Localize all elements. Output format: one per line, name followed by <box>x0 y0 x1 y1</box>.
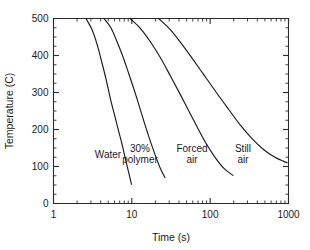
curve-label-text: air <box>186 154 198 165</box>
curve-label-text: 30% <box>130 143 150 154</box>
x-tick-label: 10 <box>126 209 138 220</box>
y-tick-label: 500 <box>32 13 49 24</box>
curve-label-text: polymer <box>122 154 158 165</box>
y-tick-label: 100 <box>32 161 49 172</box>
y-tick-label: 0 <box>43 198 49 209</box>
y-tick-label: 300 <box>32 87 49 98</box>
y-tick-label: 400 <box>32 50 49 61</box>
x-tick-label: 100 <box>202 209 219 220</box>
x-tick-label: 1 <box>51 209 57 220</box>
curve-label-text: Water <box>95 149 122 160</box>
chart-canvas: 1101001000 0100200300400500 Water30%poly… <box>0 0 310 250</box>
y-tick-label: 200 <box>32 124 49 135</box>
y-axis-title: Temperature (C) <box>3 73 15 149</box>
cooling-curve-chart: 1101001000 0100200300400500 Water30%poly… <box>0 0 310 250</box>
curve-label-text: Forced <box>176 143 207 154</box>
x-axis-title: Time (s) <box>152 231 190 243</box>
curve-label-text: Still <box>235 143 251 154</box>
curve-label-text: air <box>237 154 249 165</box>
x-tick-label: 1000 <box>277 209 300 220</box>
